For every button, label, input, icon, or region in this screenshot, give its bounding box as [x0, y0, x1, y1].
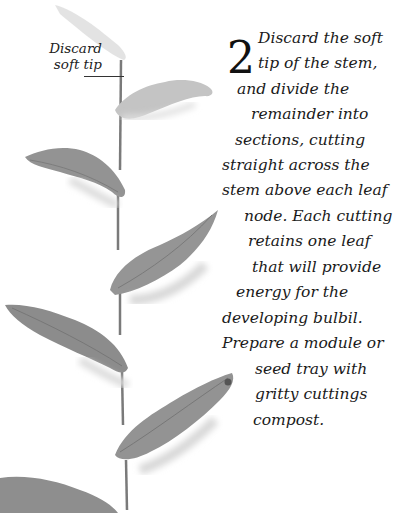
- step-text-line: tip of the stem,: [258, 51, 377, 76]
- step-text-line: node. Each cutting: [244, 204, 392, 229]
- step-text-line: energy for the: [236, 280, 348, 305]
- label-line: Discard: [20, 40, 102, 56]
- step-text-line: and divide the: [237, 77, 349, 102]
- leaf-icon: [0, 477, 118, 513]
- step-text-line: seed tray with: [255, 357, 367, 382]
- leaf-icon: [115, 373, 233, 470]
- step-text-line: straight across the: [222, 153, 370, 178]
- leaf-icon: [115, 80, 212, 119]
- step-text-line: developing bulbil.: [222, 306, 363, 331]
- step-text-line: Discard the soft: [258, 26, 383, 51]
- leaf-icon: [5, 305, 128, 385]
- step-text-line: remainder into: [251, 102, 368, 127]
- leaf-icon: [110, 210, 218, 300]
- step-text-line: compost.: [253, 408, 324, 433]
- leader-line: [84, 76, 124, 77]
- leaf-icon: [25, 148, 125, 205]
- step-text-line: stem above each leaf: [222, 178, 387, 203]
- step-number: 2: [227, 36, 255, 80]
- discard-soft-tip-label: Discard soft tip: [20, 40, 102, 72]
- step-text-line: sections, cutting: [235, 128, 365, 153]
- step-text-line: Prepare a module or: [222, 331, 384, 356]
- step-text-line: gritty cuttings: [255, 382, 367, 407]
- label-line: soft tip: [20, 56, 102, 72]
- step-text-line: that will provide: [252, 255, 381, 280]
- step-text-line: retains one leaf: [248, 229, 370, 254]
- book-page: Discard soft tip 2 Discard the softtip o…: [0, 0, 411, 513]
